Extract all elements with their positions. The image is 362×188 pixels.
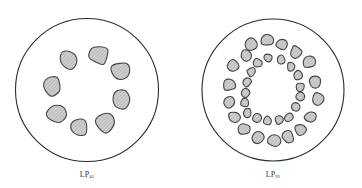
intensity-lobe bbox=[89, 47, 108, 65]
intensity-lobe bbox=[243, 78, 251, 87]
mode-label-text: LP bbox=[266, 170, 275, 179]
fiber-core-outline bbox=[16, 19, 159, 162]
intensity-lobe bbox=[277, 55, 285, 64]
intensity-lobe bbox=[276, 39, 287, 49]
intensity-lobe bbox=[245, 38, 257, 50]
intensity-lobe bbox=[284, 113, 293, 122]
intensity-lobe bbox=[253, 113, 262, 122]
intensity-lobe bbox=[282, 131, 294, 143]
intensity-lobe bbox=[224, 79, 236, 90]
intensity-lobe bbox=[267, 135, 280, 147]
intensity-lobe bbox=[288, 62, 295, 71]
intensity-lobe bbox=[227, 59, 239, 71]
intensity-lobe bbox=[46, 105, 66, 122]
mode-label-left: LP41 bbox=[80, 170, 94, 179]
intensity-lobe bbox=[292, 103, 300, 112]
intensity-lobe bbox=[243, 109, 250, 118]
intensity-lobe bbox=[296, 83, 304, 91]
intensity-lobe bbox=[252, 132, 264, 144]
intensity-lobe bbox=[71, 119, 87, 135]
intensity-lobe bbox=[264, 54, 272, 62]
intensity-lobe bbox=[241, 98, 249, 106]
intensity-lobe bbox=[275, 116, 283, 125]
intensity-lobe bbox=[95, 114, 114, 134]
intensity-lobe bbox=[229, 112, 241, 122]
intensity-lobe bbox=[295, 125, 307, 136]
intensity-lobe bbox=[303, 56, 315, 67]
intensity-lobe bbox=[253, 58, 262, 66]
intensity-lobe bbox=[224, 97, 235, 109]
mode-label-subscript: 92 bbox=[275, 174, 280, 179]
fiber-cross-section-right bbox=[202, 19, 344, 161]
intensity-lobe bbox=[238, 124, 250, 134]
intensity-lobe bbox=[113, 90, 130, 109]
mode-pattern-diagram bbox=[0, 0, 362, 188]
intensity-lobe bbox=[296, 92, 305, 101]
mode-label-right: LP92 bbox=[266, 170, 280, 179]
intensity-lobe bbox=[261, 35, 273, 45]
intensity-lobe bbox=[60, 51, 77, 69]
intensity-lobe bbox=[313, 93, 324, 106]
intensity-lobe bbox=[263, 116, 271, 125]
intensity-lobe bbox=[111, 63, 130, 79]
mode-label-text: LP bbox=[80, 170, 89, 179]
mode-label-subscript: 41 bbox=[89, 174, 94, 179]
fiber-cross-section-left bbox=[16, 19, 159, 162]
intensity-lobe bbox=[242, 88, 250, 97]
intensity-lobe bbox=[294, 70, 303, 79]
intensity-lobe bbox=[309, 76, 320, 88]
intensity-lobe bbox=[44, 77, 60, 97]
intensity-lobe bbox=[241, 50, 251, 62]
intensity-lobe bbox=[291, 46, 302, 59]
intensity-lobe bbox=[304, 112, 316, 122]
intensity-lobe bbox=[247, 67, 255, 76]
